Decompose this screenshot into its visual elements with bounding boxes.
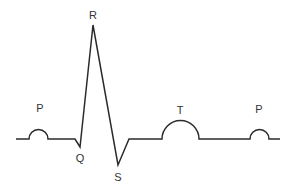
label-r-peak: R (89, 9, 97, 21)
ecg-diagram: P R Q S T P (0, 0, 293, 191)
label-p-wave-2: P (255, 103, 262, 115)
label-p-wave-1: P (36, 102, 43, 114)
ecg-trace (16, 25, 280, 165)
label-s-wave: S (114, 171, 121, 183)
label-q-wave: Q (76, 152, 85, 164)
label-t-wave: T (177, 104, 184, 116)
